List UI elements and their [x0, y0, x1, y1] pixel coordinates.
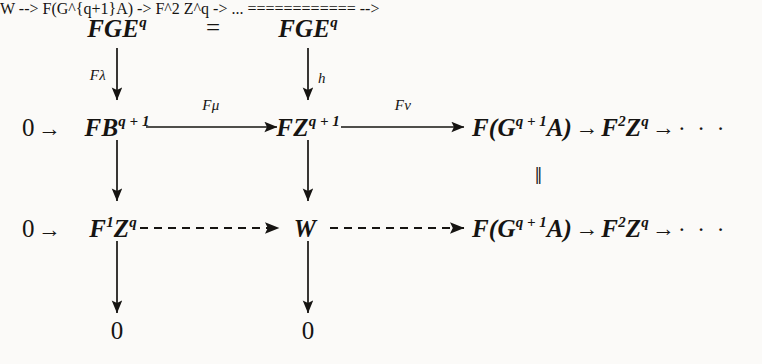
node-f2z-tail: Z — [626, 114, 641, 141]
node-fga-base: F(G — [472, 114, 516, 141]
row2-inline-arrow-2: → — [572, 116, 601, 141]
node-f1z-tail: Z — [114, 215, 129, 242]
node-f1z-base: F — [89, 215, 106, 242]
node-top-left-base: FGE — [87, 15, 139, 42]
label-f-mu: Fμ — [202, 97, 219, 114]
node-bottom-zero-left: 0 — [111, 318, 124, 343]
label-f-lambda: Fλ — [90, 67, 106, 84]
node-f2z2-tail-sup: q — [641, 214, 649, 230]
commutative-diagram: FZ^{q+1} --> F(G^{q+1}A) --> W --> F(G^{… — [0, 0, 762, 364]
row2-left-exact-start: 0→ — [22, 115, 64, 140]
node-f2z2-sup: 2 — [618, 214, 626, 230]
node-f2z2-base: F — [601, 215, 618, 242]
row3-left-exact-start: 0→ — [22, 216, 64, 241]
row2-inline-arrow-3: → — [649, 116, 678, 141]
node-fga2-tail: A) — [547, 215, 572, 242]
node-f2z-base: F — [601, 114, 618, 141]
node-f1z: F1Zq — [89, 215, 136, 240]
node-fga2-sup: q + 1 — [516, 214, 547, 230]
row3-zero: 0 — [22, 215, 35, 242]
node-top-left: FGEq — [87, 15, 147, 40]
row3-ellipsis: · · · — [678, 217, 727, 242]
node-top-left-sup: q — [139, 14, 147, 30]
node-fz: FZq + 1 — [276, 114, 339, 139]
node-fga2-base: F(G — [472, 215, 516, 242]
row2-right-tail: F(Gq + 1A)→F2Zq→· · · — [472, 114, 727, 139]
row3-inline-arrow-3: → — [649, 217, 678, 242]
node-f1z-tail-sup: q — [129, 214, 137, 230]
top-equals-sign: = — [206, 14, 220, 42]
row2-ellipsis: · · · — [678, 116, 727, 141]
node-w: W — [294, 216, 316, 241]
node-f2z-sup: 2 — [618, 113, 626, 129]
node-fb-base: FB — [85, 114, 119, 141]
row2-inline-arrow-1: → — [35, 116, 64, 141]
node-bottom-zero-center: 0 — [302, 318, 315, 343]
node-top-right-base: FGE — [278, 15, 330, 42]
label-f-nu: Fν — [395, 97, 411, 114]
node-w-base: W — [294, 215, 316, 242]
node-top-right-sup: q — [330, 14, 338, 30]
node-fb: FBq + 1 — [85, 114, 150, 139]
label-h: h — [318, 70, 326, 87]
node-fz-sup: q + 1 — [309, 113, 340, 129]
row3-inline-arrow-1: → — [35, 217, 64, 242]
vertical-equality-bars: ‖ — [535, 161, 541, 191]
node-fb-sup: q + 1 — [118, 113, 149, 129]
node-f2z-tail-sup: q — [641, 113, 649, 129]
row3-inline-arrow-2: → — [572, 217, 601, 242]
node-f2z2-tail: Z — [626, 215, 641, 242]
node-fga-tail: A) — [547, 114, 572, 141]
row3-right-tail: F(Gq + 1A)→F2Zq→· · · — [472, 215, 727, 240]
node-fz-base: FZ — [276, 114, 308, 141]
row2-zero: 0 — [22, 114, 35, 141]
node-top-right: FGEq — [278, 15, 338, 40]
arrow-layer: FZ^{q+1} --> F(G^{q+1}A) --> W --> F(G^{… — [0, 0, 762, 364]
node-fga-sup: q + 1 — [516, 113, 547, 129]
